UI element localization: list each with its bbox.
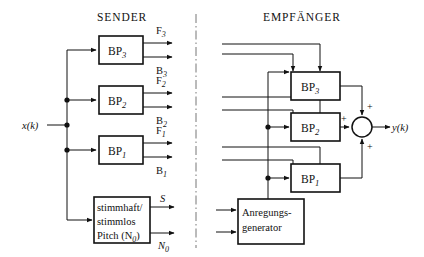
excitation-generator-line2: generator bbox=[242, 222, 282, 233]
input-signal-label: x(k) bbox=[21, 120, 39, 132]
receiver-title: EMPFÄNGER bbox=[263, 10, 341, 23]
sender-title: SENDER bbox=[97, 11, 147, 23]
adder-sign-bottom: + bbox=[367, 141, 373, 152]
receiver-bp3-param-wire-b bbox=[222, 54, 293, 71]
output-signal-label: y(k) bbox=[391, 122, 409, 134]
block-diagram-figure: SENDER EMPFÄNGER x(k) BP3 F3 B3 BP2 F2 B… bbox=[0, 0, 424, 257]
sender-bp1-back-label: B1 bbox=[156, 165, 167, 179]
voicing-analyzer-line2: stimmlos bbox=[97, 216, 136, 227]
excitation-generator-line1: Anregungs- bbox=[242, 207, 292, 218]
pitch-label: N0 bbox=[157, 240, 169, 254]
voicing-analyzer-line1: stimmhaft/ bbox=[97, 202, 143, 213]
excitation-bus bbox=[268, 72, 289, 199]
receiver-bp1-output-wire bbox=[340, 139, 362, 178]
receiver-bp1-param-wire-b bbox=[222, 160, 293, 176]
receiver-bp2-param-wire-b bbox=[222, 110, 293, 125]
sender-bp3-forward-label: F3 bbox=[156, 25, 166, 39]
sender-bus-node-input bbox=[64, 122, 69, 127]
summing-junction bbox=[352, 117, 372, 137]
receiver-bp3-param-wire-a bbox=[222, 44, 320, 71]
adder-sign-left: + bbox=[341, 113, 347, 124]
adder-sign-top: + bbox=[367, 101, 373, 112]
receiver-bp3-output-wire bbox=[340, 86, 362, 115]
voicing-flag-label: S bbox=[160, 193, 166, 204]
excitation-node-bp1 bbox=[265, 175, 270, 180]
excitation-node-bp2 bbox=[265, 124, 270, 129]
